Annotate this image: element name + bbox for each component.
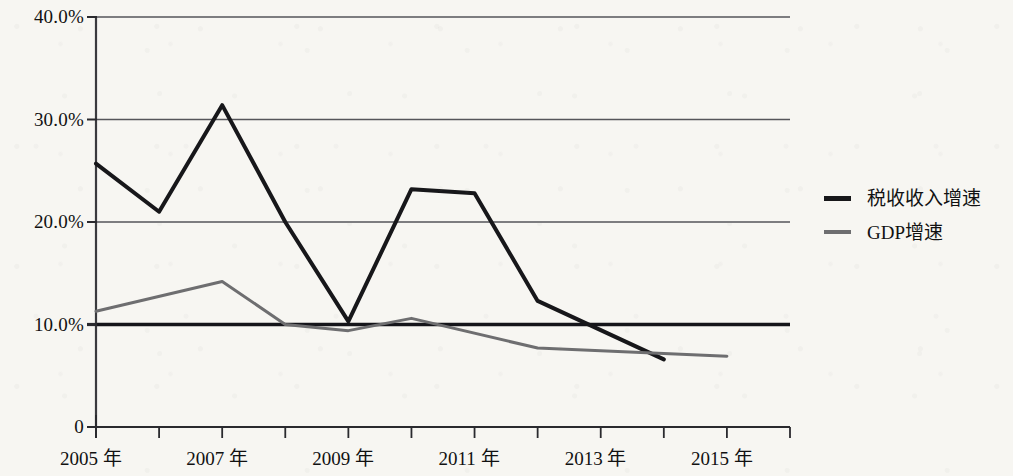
legend-label-tax: 税收收入增速	[867, 189, 981, 208]
y-tick-label-40: 40.0%	[34, 7, 84, 26]
legend-item-tax: 税收收入增速	[824, 181, 1013, 215]
gridlines	[96, 17, 790, 325]
series-line-tax	[96, 105, 664, 359]
legend-label-gdp: GDP增速	[867, 223, 943, 242]
legend-line-swatch-tax	[824, 196, 851, 201]
x-tick-label-2015: 2015 年	[691, 449, 753, 468]
x-tick-label-2013: 2013 年	[565, 449, 627, 468]
x-tick-label-2011: 2011 年	[439, 449, 500, 468]
legend-item-gdp: GDP增速	[824, 215, 1013, 249]
x-tick-label-2009: 2009 年	[312, 449, 374, 468]
chart-figure: 010.0%20.0%30.0%40.0% 2005 年2007 年2009 年…	[0, 0, 1013, 476]
legend-line-swatch-gdp	[824, 230, 851, 234]
x-tick-label-2007: 2007 年	[186, 449, 248, 468]
x-tick-label-2005: 2005 年	[60, 449, 122, 468]
y-tick-label-0: 0	[74, 417, 84, 436]
y-tick-label-30: 30.0%	[34, 110, 84, 129]
data-series	[96, 105, 727, 359]
y-tick-label-10: 10.0%	[34, 315, 84, 334]
y-tick-label-20: 20.0%	[34, 212, 84, 231]
chart-legend: 税收收入增速 GDP增速	[824, 181, 1013, 249]
